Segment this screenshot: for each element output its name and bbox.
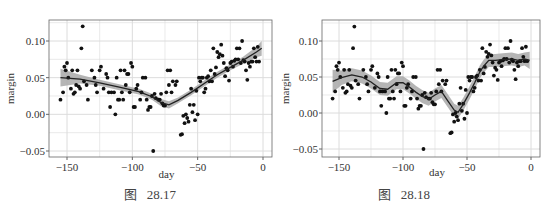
data-point [331,97,335,101]
data-point [352,25,356,29]
y-tick-label: 0.00 [26,108,46,120]
data-point [138,98,142,102]
data-point [419,104,423,108]
data-point [422,147,426,151]
data-point [521,55,525,59]
data-point [210,79,214,83]
data-point [244,68,248,72]
data-point [112,90,116,94]
data-point [183,121,187,125]
data-point [214,66,218,70]
data-point [94,83,98,87]
data-point [456,118,460,122]
data-point [488,43,492,47]
data-point [128,90,132,94]
data-point [193,118,197,122]
data-point [354,79,358,83]
data-point [211,46,215,50]
data-point [512,68,516,72]
data-point [145,98,149,102]
data-point [79,46,83,50]
data-point [495,68,499,72]
data-point [209,68,213,72]
data-point [115,76,119,80]
data-point [99,65,103,69]
data-point [401,64,405,68]
data-point [117,98,121,102]
data-point [336,68,340,72]
data-point [393,68,397,72]
y-axis-label: margin [4,73,16,104]
y-tick-label: 0.00 [299,107,319,119]
x-tick-label: −100 [392,161,415,173]
data-point [171,79,175,83]
data-point [347,68,351,72]
data-point [361,68,365,72]
data-point [248,65,252,69]
data-point [333,90,337,94]
data-point [180,132,184,136]
data-point [386,75,390,79]
data-point [365,82,369,86]
y-tick-label: −0.05 [20,145,46,157]
data-point [437,82,441,86]
data-point [482,72,486,76]
data-point [223,74,227,78]
data-point [134,87,138,91]
data-point [127,72,131,76]
data-point [390,68,394,72]
data-point [123,68,127,72]
data-point [350,86,354,90]
data-point [129,61,133,65]
data-point [367,90,371,94]
data-point [167,83,171,87]
x-tick-label: −50 [458,161,476,173]
data-point [164,90,168,94]
data-point [240,39,244,43]
data-point [468,79,472,83]
y-tick-label: 0.10 [299,35,319,47]
data-point [222,61,226,65]
data-point [119,68,123,72]
data-point [192,103,196,107]
data-point [187,120,191,124]
data-point [121,98,125,102]
data-point [455,115,459,119]
data-point [251,60,255,64]
data-point [520,46,524,50]
data-point [65,61,69,65]
data-point [104,72,108,76]
data-point [236,57,240,61]
data-point [337,61,341,65]
data-point [64,68,68,72]
data-point [93,76,97,80]
data-point [238,46,242,50]
data-point [204,87,208,91]
y-tick-label: −0.05 [293,143,319,155]
data-point [524,45,528,49]
data-point [489,54,493,58]
data-point [175,79,179,83]
data-point [397,72,401,76]
data-point [376,72,380,76]
data-point [480,46,484,50]
y-tick-label: 0.05 [26,72,46,84]
data-point [227,79,231,83]
data-point [404,104,408,108]
data-point [438,68,442,72]
data-point [434,90,438,94]
data-point [452,120,456,124]
data-point [465,111,469,115]
data-point [335,64,339,68]
data-point [257,60,261,64]
data-point [383,90,387,94]
data-point [345,90,349,94]
data-point [414,75,418,79]
data-point [113,112,117,116]
data-point [433,102,437,106]
data-point [120,90,124,94]
data-point [76,68,80,72]
data-point [509,39,513,43]
data-point [188,103,192,107]
data-point [149,105,153,109]
